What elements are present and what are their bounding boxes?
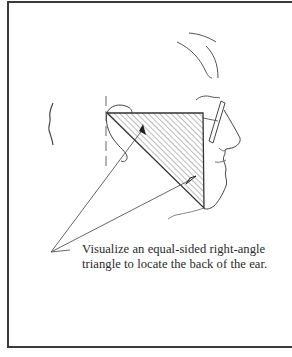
glasses-temple [209,101,225,143]
caption-line-1: Visualize an equal-sided right-angle [82,242,282,257]
face-profile [204,110,240,209]
back-of-head-stroke [49,103,53,145]
brow-stroke [196,96,220,100]
hair-strokes [177,33,218,78]
caption-line-2: triangle to locate the back of the ear. [82,257,282,272]
head-profile-illustration [0,0,292,357]
caption: Visualize an equal-sided right-angle tri… [82,242,282,272]
neck-stroke [168,208,204,219]
